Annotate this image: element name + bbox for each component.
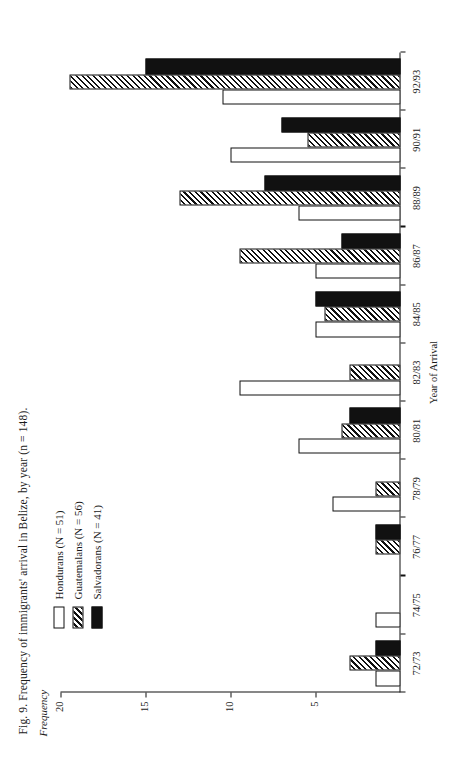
- x-tick: [400, 691, 405, 692]
- figure-canvas: Fig. 9. Frequency of immigrants' arrival…: [0, 0, 453, 764]
- x-tick: [400, 400, 405, 401]
- x-category-label: 82/83: [410, 360, 421, 384]
- bar: [69, 74, 401, 89]
- y-axis-label: Frequency: [36, 689, 48, 736]
- figure-caption: Fig. 9. Frequency of immigrants' arrival…: [16, 407, 28, 734]
- bar: [375, 539, 401, 554]
- y-tick-label: 15: [139, 701, 150, 729]
- bar: [375, 640, 401, 655]
- plot-area: 5101520 72/7374/7576/7778/7980/8182/8384…: [60, 52, 400, 692]
- bar: [298, 205, 400, 220]
- y-tick: [145, 692, 146, 697]
- x-axis-label: Year of Arrival: [427, 340, 438, 403]
- bar: [145, 58, 400, 73]
- y-tick-label: 10: [224, 701, 235, 729]
- x-tick: [400, 51, 405, 52]
- x-category-label: 90/91: [410, 127, 421, 151]
- bar: [349, 408, 400, 423]
- x-category-label: 92/93: [410, 69, 421, 93]
- y-tick: [230, 692, 231, 697]
- bar: [375, 481, 401, 496]
- bar: [315, 291, 400, 306]
- x-tick: [400, 167, 405, 168]
- x-tick: [400, 516, 405, 517]
- bar: [264, 175, 400, 190]
- bar: [349, 655, 400, 670]
- x-category-label: 80/81: [410, 418, 421, 442]
- bar: [324, 306, 401, 321]
- x-tick: [400, 574, 405, 575]
- bar: [230, 147, 400, 162]
- bar: [332, 496, 400, 511]
- bar: [298, 438, 400, 453]
- x-category-label: 78/79: [410, 476, 421, 500]
- bar: [349, 364, 400, 379]
- bar: [222, 89, 401, 104]
- y-tick: [60, 692, 61, 697]
- bar: [179, 190, 400, 205]
- bar: [281, 117, 400, 132]
- x-tick: [400, 633, 405, 634]
- x-tick: [400, 225, 405, 226]
- x-category-label: 86/87: [410, 244, 421, 268]
- x-category-label: 76/77: [410, 535, 421, 559]
- x-category-label: 74/75: [410, 593, 421, 617]
- bar: [307, 132, 401, 147]
- x-tick: [400, 284, 405, 285]
- bar: [341, 423, 401, 438]
- y-tick-label: 20: [54, 701, 65, 729]
- bar: [375, 670, 401, 685]
- bar: [315, 321, 400, 336]
- x-category-label: 72/73: [410, 651, 421, 675]
- bar: [375, 524, 401, 539]
- plot-inner: 5101520 72/7374/7576/7778/7980/8182/8384…: [60, 52, 400, 692]
- y-tick-label: 5: [309, 701, 320, 729]
- bar: [239, 380, 401, 395]
- bar: [375, 612, 401, 627]
- x-tick: [400, 458, 405, 459]
- x-category-label: 84/85: [410, 302, 421, 326]
- x-tick: [400, 109, 405, 110]
- bar: [239, 248, 401, 263]
- bar: [341, 233, 401, 248]
- x-tick: [400, 342, 405, 343]
- bar: [315, 263, 400, 278]
- y-tick: [315, 692, 316, 697]
- x-category-label: 88/89: [410, 186, 421, 210]
